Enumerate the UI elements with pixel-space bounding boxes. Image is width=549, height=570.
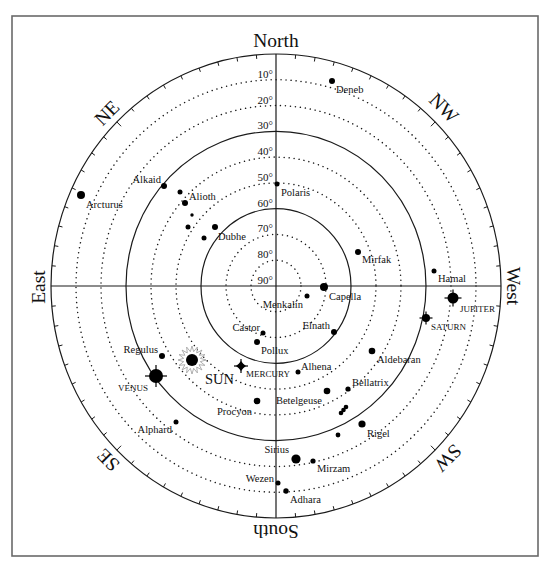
star-label: Adhara — [290, 494, 321, 505]
star-label: Aldebaran — [377, 354, 421, 365]
star-label: Wezen — [246, 473, 275, 484]
star-unlabeled — [178, 190, 183, 195]
star-dot-icon — [159, 353, 165, 359]
star-dot-icon — [324, 388, 331, 395]
star-dot-icon — [345, 386, 350, 391]
star-dot-icon — [432, 269, 437, 274]
star-label: Alhena — [301, 361, 332, 372]
planet-label: MERCURY — [246, 369, 291, 379]
star-label: Mirzam — [317, 463, 350, 474]
star-label: Pollux — [261, 345, 289, 356]
star-label: Alkaid — [132, 174, 161, 185]
star-label: Dubhe — [218, 231, 246, 242]
star-dot-icon — [291, 454, 300, 463]
star-unlabeled — [186, 225, 191, 230]
altitude-label-80: 80° — [258, 248, 273, 260]
star-dot-icon — [182, 200, 188, 206]
star-dot-icon — [358, 420, 365, 427]
compass-label-west: West — [503, 267, 524, 306]
azimuth-tick — [494, 246, 498, 247]
star-dot-icon — [331, 329, 337, 335]
star-dot-icon — [310, 458, 315, 463]
star-label: Procyon — [217, 406, 253, 417]
sun-label: SUN — [205, 371, 235, 387]
altitude-label-10: 10° — [258, 68, 273, 80]
star-dot-icon — [275, 182, 280, 187]
star-label: Betelgeuse — [276, 395, 322, 406]
star-label: Elnath — [303, 320, 331, 331]
star-label: Arcturus — [86, 199, 123, 210]
planet-label: JUPITER — [460, 304, 495, 314]
star-unlabeled — [336, 433, 341, 438]
planet-label: VENUS — [118, 383, 148, 393]
altitude-label-40: 40° — [258, 145, 273, 157]
star-dot-icon — [178, 190, 183, 195]
azimuth-tick — [314, 58, 315, 62]
star-dot-icon — [283, 488, 288, 493]
grid-layer — [12, 16, 538, 556]
azimuth-tick — [237, 58, 238, 62]
altitude-label-90: 90° — [258, 274, 273, 286]
star-label: Polaris — [281, 187, 310, 198]
star-dot-icon — [161, 183, 167, 189]
star-label: Alphard — [138, 424, 173, 435]
star-dot-icon — [355, 249, 361, 255]
star-label: Sirius — [264, 444, 289, 455]
star-dot-icon — [320, 283, 328, 291]
altitude-label-60: 60° — [258, 197, 273, 209]
azimuth-tick — [237, 510, 238, 514]
star-dot-icon — [305, 294, 310, 299]
star-unlabeled — [202, 236, 207, 241]
sky-chart: 10°20°30°40°50°60°70°80°90°NorthSouthEas… — [0, 0, 549, 570]
star-label: Alioth — [189, 191, 217, 202]
star-dot-icon — [186, 225, 191, 230]
star-dot-icon — [254, 398, 261, 405]
star-dot-icon — [296, 370, 301, 375]
altitude-label-50: 50° — [258, 171, 273, 183]
compass-label-east: East — [28, 270, 49, 304]
star-dot-icon — [329, 78, 335, 84]
star-label: Hamal — [438, 273, 466, 284]
star-label: Rigel — [367, 428, 390, 439]
star-dot-icon — [276, 481, 281, 486]
altitude-label-70: 70° — [258, 222, 273, 234]
azimuth-tick — [494, 326, 498, 327]
star-label: Menkalin — [263, 299, 304, 310]
star-dot-icon — [174, 420, 179, 425]
altitude-label-30: 30° — [258, 119, 273, 131]
star-dot-icon — [336, 433, 341, 438]
star-label: Bellatrix — [352, 377, 389, 388]
compass-label-south: South — [253, 521, 299, 542]
star-unlabeled — [344, 405, 349, 410]
azimuth-tick — [54, 246, 58, 247]
azimuth-tick — [314, 510, 315, 514]
star-dot-icon — [254, 339, 260, 345]
star-dot-icon — [261, 331, 266, 336]
azimuth-tick — [54, 326, 58, 327]
sun-disc-icon — [186, 354, 198, 366]
star-dot-icon — [344, 405, 349, 410]
star-dot-icon — [77, 191, 85, 199]
star-label: Deneb — [336, 84, 363, 95]
star-label: Castor — [233, 322, 261, 333]
star-label: Capella — [329, 291, 361, 302]
star-dot-icon — [212, 224, 218, 230]
star-label: Regulus — [124, 344, 158, 355]
star-dot-icon — [202, 236, 207, 241]
star-dot-icon — [190, 213, 193, 216]
compass-label-north: North — [253, 30, 299, 51]
altitude-label-20: 20° — [258, 94, 273, 106]
planet-label: SATURN — [431, 322, 467, 332]
star-label: Mirfak — [362, 254, 392, 265]
star-unlabeled — [190, 213, 193, 216]
star-dot-icon — [369, 348, 376, 355]
